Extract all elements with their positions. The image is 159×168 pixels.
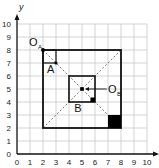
y-tick-label: 6 [7, 72, 12, 81]
x-axis-arrow-icon [153, 152, 159, 157]
x-tick-label: 2 [41, 158, 46, 167]
square-a-corner-dot [54, 61, 57, 64]
y-tick-label: 5 [7, 85, 12, 94]
x-tick-label: 1 [28, 158, 33, 167]
coordinate-diagram: 012345678910012345678910xyOAABOB [0, 0, 159, 168]
ob-label-subscript: B [117, 91, 121, 97]
y-tick-label: 0 [7, 150, 12, 159]
y-tick-label: 10 [2, 20, 11, 29]
small-filled-square [90, 97, 95, 102]
ob-label: O [108, 83, 117, 95]
x-tick-label: 9 [132, 158, 137, 167]
filled-square [108, 115, 121, 128]
x-tick-label: 4 [67, 158, 72, 167]
y-tick-label: 8 [7, 46, 12, 55]
y-tick-label: 2 [7, 124, 12, 133]
x-tick-label: 8 [119, 158, 124, 167]
y-tick-label: 7 [7, 59, 12, 68]
center-ob-dot [80, 87, 84, 91]
y-tick-label: 4 [7, 98, 12, 107]
x-tick-label: 3 [54, 158, 59, 167]
oa-label-subscript: A [38, 44, 42, 50]
x-tick-label: 7 [106, 158, 111, 167]
oa-label: O [29, 36, 38, 48]
y-tick-label: 3 [7, 111, 12, 120]
x-tick-label: 0 [15, 158, 20, 167]
y-tick-label: 9 [7, 33, 12, 42]
x-tick-label: 10 [143, 158, 152, 167]
y-axis-label: y [18, 2, 24, 12]
square-b-label: B [74, 102, 81, 114]
x-tick-label: 5 [80, 158, 85, 167]
y-tick-label: 1 [7, 137, 12, 146]
x-tick-label: 6 [93, 158, 98, 167]
y-axis-arrow-icon [15, 14, 20, 20]
square-a-label: A [47, 63, 55, 75]
